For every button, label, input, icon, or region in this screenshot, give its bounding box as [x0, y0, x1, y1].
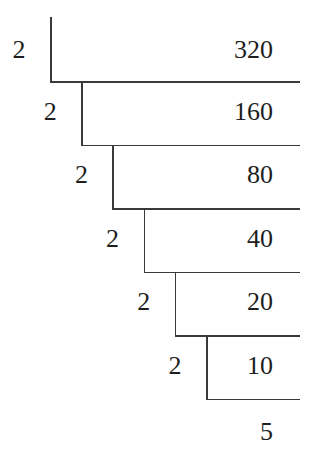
division-bracket-horizontal [144, 272, 300, 274]
divisor: 2 [38, 99, 62, 125]
division-bracket-vertical [112, 145, 114, 209]
division-bracket-vertical [144, 208, 146, 272]
division-bracket-vertical [81, 81, 83, 145]
divisor: 2 [7, 37, 31, 63]
divisor: 2 [101, 226, 125, 252]
division-bracket-vertical [175, 272, 177, 336]
division-bracket-horizontal [112, 208, 300, 210]
dividend: 10 [193, 353, 273, 379]
dividend: 40 [193, 226, 273, 252]
dividend: 80 [193, 162, 273, 188]
dividend: 160 [193, 99, 273, 125]
division-bracket-vertical [50, 17, 52, 81]
division-bracket-horizontal [175, 335, 300, 337]
dividend: 20 [193, 289, 273, 315]
division-bracket-horizontal [206, 399, 300, 401]
divisor: 2 [163, 353, 187, 379]
final-quotient: 5 [193, 419, 273, 445]
dividend: 320 [193, 37, 273, 63]
division-bracket-horizontal [50, 81, 300, 83]
division-bracket-horizontal [81, 145, 300, 147]
divisor: 2 [132, 289, 156, 315]
divisor: 2 [69, 162, 93, 188]
